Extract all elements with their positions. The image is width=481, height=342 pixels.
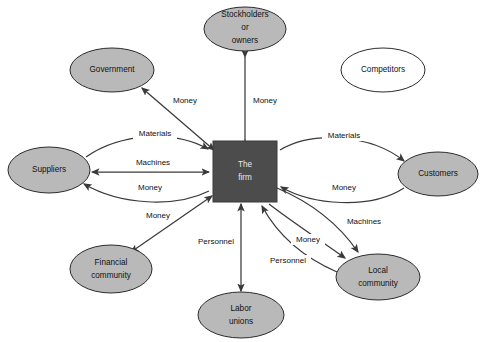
the-firm-label-line1: The <box>238 160 253 169</box>
node-government[interactable]: Government <box>70 48 154 92</box>
flow-customers-materials-arrow <box>280 138 404 161</box>
competitors-label: Competitors <box>361 65 405 74</box>
flow-label-customers-money: Money <box>327 182 361 193</box>
node-labor-unions[interactable]: Labor unions <box>198 292 284 338</box>
node-stockholders-or-owners[interactable]: Stockholders or owners <box>204 7 286 51</box>
government-label: Government <box>89 65 135 74</box>
stockholders-label-line1: Stockholders <box>221 10 268 19</box>
stockholders-label-line2: or <box>241 23 249 32</box>
flow-suppliers-money-label: Money <box>138 183 162 192</box>
local-community-label-line1: Local <box>368 266 388 275</box>
flow-suppliers-materials-label: Materials <box>139 129 171 138</box>
node-suppliers[interactable]: Suppliers <box>8 147 90 193</box>
flow-label-stockholders-money: Money <box>248 95 282 106</box>
flow-label-suppliers-machines: Machines <box>130 157 176 168</box>
financial-community-ellipse[interactable] <box>70 245 152 293</box>
labor-unions-label-line2: unions <box>229 317 253 326</box>
local-community-ellipse[interactable] <box>336 254 420 300</box>
flow-government-money-label: Money <box>173 96 197 105</box>
stakeholder-diagram: Stockholders or owners Government Compet… <box>0 0 481 342</box>
flow-label-suppliers-materials: Materials <box>133 128 177 139</box>
node-financial-community[interactable]: Financial community <box>70 245 152 293</box>
labor-unions-label-line1: Labor <box>231 304 252 313</box>
diagram-canvas: Stockholders or owners Government Compet… <box>0 0 481 342</box>
financial-community-label-line2: community <box>91 271 131 280</box>
flow-label-customers-materials: Materials <box>322 130 366 141</box>
labor-unions-ellipse[interactable] <box>198 292 284 338</box>
flow-local-money-label: Money <box>296 235 320 244</box>
local-community-label-line2: community <box>358 279 398 288</box>
flow-label-local-personnel: Personnel <box>265 255 311 266</box>
stockholders-label-line3: owners <box>232 36 258 45</box>
node-customers[interactable]: Customers <box>398 152 478 196</box>
flow-customers-materials-label: Materials <box>328 131 360 140</box>
flow-local-personnel-label: Personnel <box>270 256 306 265</box>
flow-label-labor-personnel: Personnel <box>193 236 239 247</box>
flow-local-money-arrow <box>269 204 345 258</box>
the-firm-label-line2: firm <box>238 173 252 182</box>
flow-label-local-money: Money <box>291 234 325 245</box>
flow-label-financial-money: Money <box>141 210 175 221</box>
flow-stockholders-money-label: Money <box>253 96 277 105</box>
flow-financial-money-label: Money <box>146 211 170 220</box>
node-competitors[interactable]: Competitors <box>341 48 425 92</box>
flow-suppliers-materials-arrow <box>86 137 208 157</box>
the-firm-rect[interactable] <box>213 141 277 202</box>
flow-label-government-money: Money <box>168 95 202 106</box>
node-local-community[interactable]: Local community <box>336 254 420 300</box>
nodes-group: Stockholders or owners Government Compet… <box>8 7 478 338</box>
node-the-firm[interactable]: The firm <box>213 141 277 202</box>
flow-suppliers-machines-label: Machines <box>136 158 170 167</box>
flow-label-suppliers-money: Money <box>133 182 167 193</box>
financial-community-label-line1: Financial <box>95 258 128 267</box>
flow-customers-money-label: Money <box>332 183 356 192</box>
flow-labor-personnel-label: Personnel <box>198 237 234 246</box>
customers-label: Customers <box>418 169 458 178</box>
flow-label-local-machines: Machines <box>341 216 387 227</box>
flow-local-machines-label: Machines <box>347 217 381 226</box>
suppliers-label: Suppliers <box>32 165 66 174</box>
